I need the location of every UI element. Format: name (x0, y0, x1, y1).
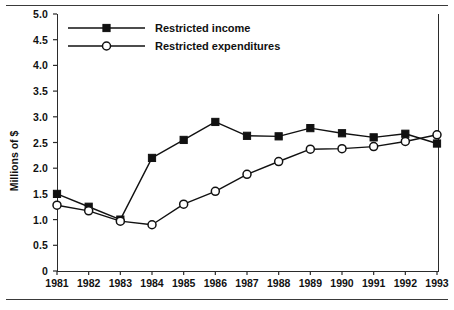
legend-label-restricted-expenditures: Restricted expenditures (155, 40, 280, 52)
y-tick-label: 4.5 (14, 34, 48, 46)
y-tick-label: 0.5 (14, 239, 48, 251)
y-tick-label: 1.5 (14, 188, 48, 200)
x-axis-ticks (57, 271, 437, 275)
legend-label-restricted-income: Restricted income (155, 22, 250, 34)
legend-symbols-group (68, 24, 145, 50)
y-tick-label: 2.0 (14, 162, 48, 174)
series-markers-group (53, 118, 441, 228)
y-tick-label: 3.0 (14, 111, 48, 123)
y-tick-label: 3.5 (14, 85, 48, 97)
y-axis-ticks (53, 14, 57, 271)
x-tick-label: 1993 (414, 277, 454, 289)
y-tick-label: 1.0 (14, 214, 48, 226)
y-tick-label: 4.0 (14, 59, 48, 71)
y-tick-label: 0 (14, 265, 48, 277)
y-tick-label: 5.0 (14, 8, 48, 20)
chart-figure: Millions of $ 00.51.01.52.02.53.03.54.04… (0, 0, 454, 310)
y-tick-label: 2.5 (14, 137, 48, 149)
